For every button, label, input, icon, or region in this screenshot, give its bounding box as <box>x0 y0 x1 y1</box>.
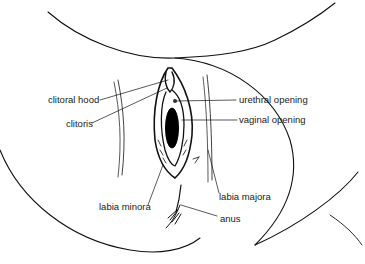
leader-labia-majora <box>208 150 219 193</box>
line-drawing <box>0 0 365 264</box>
vaginal-opening-shape <box>166 108 179 148</box>
anatomy-diagram: clitoral hood clitoris urethral opening … <box>0 0 365 264</box>
label-labia-minora: labia minora <box>99 202 151 212</box>
right-edge-contour <box>330 215 362 245</box>
right-crease-2 <box>203 77 208 182</box>
label-urethral-opening: urethral opening <box>239 95 308 105</box>
hood-outline <box>165 72 174 92</box>
label-vaginal-opening: vaginal opening <box>239 115 306 125</box>
small-arrow <box>193 157 199 163</box>
leader-urethral-opening <box>176 100 236 101</box>
label-anus: anus <box>220 214 241 224</box>
label-labia-majora: labia majora <box>219 192 271 202</box>
left-crease-2 <box>114 82 120 177</box>
label-clitoral-hood: clitoral hood <box>48 95 99 105</box>
label-clitoris: clitoris <box>66 119 93 129</box>
anus-hatching <box>166 205 181 228</box>
leader-labia-minora <box>148 165 163 205</box>
right-thigh-contour <box>255 172 358 245</box>
upper-thigh-contour <box>48 3 335 58</box>
leader-anus <box>181 205 217 216</box>
